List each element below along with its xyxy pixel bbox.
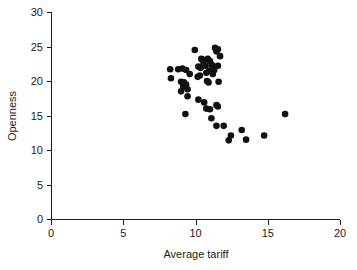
data-point xyxy=(167,66,174,73)
x-tick-label: 20 xyxy=(334,227,346,239)
y-tick-label: 15 xyxy=(31,110,43,122)
y-axis: 051015202530 xyxy=(31,6,52,225)
data-point xyxy=(215,46,222,53)
y-tick-label: 25 xyxy=(31,41,43,53)
data-point xyxy=(205,79,212,86)
data-point xyxy=(203,69,210,76)
data-point xyxy=(243,136,250,143)
x-tick-label: 5 xyxy=(120,227,126,239)
data-point xyxy=(282,111,289,118)
data-point xyxy=(184,86,191,93)
data-point xyxy=(186,71,193,78)
data-point xyxy=(215,103,222,110)
data-point xyxy=(184,93,191,100)
y-axis-title: Openness xyxy=(6,90,18,141)
data-point xyxy=(261,132,268,139)
data-point xyxy=(213,123,220,130)
data-point xyxy=(228,132,235,139)
data-point xyxy=(220,123,227,130)
y-tick-label: 30 xyxy=(31,6,43,18)
data-point xyxy=(238,127,245,134)
x-tick-label: 0 xyxy=(48,227,54,239)
data-point xyxy=(217,53,224,60)
x-axis-title: Average tariff xyxy=(163,248,229,260)
y-tick-label: 5 xyxy=(37,179,43,191)
data-point xyxy=(208,115,215,122)
scatter-chart: 051015202530 05101520 Average tariff Ope… xyxy=(0,0,357,270)
data-point xyxy=(182,111,189,118)
data-point xyxy=(201,99,208,106)
data-point xyxy=(194,74,201,81)
data-point xyxy=(207,106,214,113)
data-points-layer xyxy=(167,45,288,144)
x-tick-label: 10 xyxy=(189,227,201,239)
x-axis: 05101520 xyxy=(48,220,346,240)
data-point xyxy=(215,78,222,85)
plot-area: 051015202530 05101520 Average tariff Ope… xyxy=(0,0,357,270)
data-point xyxy=(191,47,198,54)
y-tick-label: 20 xyxy=(31,75,43,87)
y-tick-label: 0 xyxy=(37,213,43,225)
data-point xyxy=(178,88,185,95)
data-point xyxy=(168,75,175,82)
y-tick-label: 10 xyxy=(31,144,43,156)
data-point xyxy=(195,96,202,103)
data-point xyxy=(215,63,222,70)
x-tick-label: 15 xyxy=(262,227,274,239)
